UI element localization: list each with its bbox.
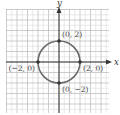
point-label: (−2, 0)	[9, 64, 36, 73]
grid	[6, 9, 109, 113]
x-axis-arrow-icon	[106, 60, 112, 65]
x-axis-label: x	[114, 57, 119, 67]
data-point	[57, 81, 61, 85]
y-axis-label: y	[56, 0, 62, 8]
point-label: (2, 0)	[83, 64, 103, 73]
point-label: (0, −2)	[62, 85, 89, 94]
data-point	[36, 60, 40, 64]
data-point	[57, 39, 61, 43]
point-label: (0, 2)	[62, 30, 82, 39]
data-point	[78, 60, 82, 64]
circle-graph: x y (0, 2)(2, 0)(−2, 0)(0, −2)	[0, 0, 120, 115]
